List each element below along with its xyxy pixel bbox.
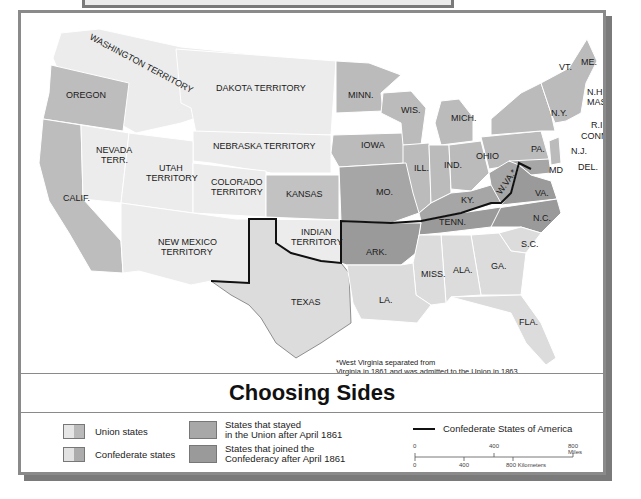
confederate-swatch [63, 447, 85, 462]
joined-confederacy-swatch [189, 445, 217, 463]
label-utah: UTAH [159, 163, 183, 173]
legend-label-csa: Confederate States of America [443, 424, 572, 434]
scale-miles-800: 800 Miles [568, 443, 593, 455]
label-dakota-territory: DAKOTA TERRITORY [216, 83, 306, 93]
legend-label-union: Union states [95, 427, 148, 437]
label-indian-territory-2: TERRITORY [291, 237, 343, 247]
csa-line-icon [413, 428, 435, 430]
label-michigan: MICH. [451, 113, 477, 123]
label-oregon: OREGON [66, 90, 106, 100]
label-indian-territory: INDIAN [301, 227, 332, 237]
label-nevada: NEVADA [96, 145, 132, 155]
legend-label-joined-2: Confederacy after April 1861 [225, 454, 345, 464]
label-ohio: OHIO [476, 151, 499, 161]
label-wisconsin: WIS. [401, 105, 421, 115]
label-new-hampshire: N.H. [587, 87, 603, 97]
legend-item-union: Union states [63, 424, 148, 439]
scale-bar: 0 400 800 Miles 0 400 800 Kilometers [413, 443, 593, 473]
label-colorado-2: TERRITORY [211, 187, 263, 197]
scale-km-0: 0 [413, 462, 416, 468]
label-alabama: ALA. [453, 265, 473, 275]
label-kansas: KANSAS [286, 189, 323, 199]
label-georgia: GA. [491, 261, 507, 271]
scale-km-400: 400 [459, 462, 469, 468]
us-civil-war-map: WASHINGTON TERRITORY OREGON DAKOTA TERRI… [21, 13, 603, 373]
label-new-york: N.Y. [551, 108, 567, 118]
label-rhode-island: R.I. [591, 120, 603, 130]
label-pennsylvania: PA. [531, 144, 545, 154]
legend-item-confederate: Confederate states [63, 447, 175, 462]
legend-item-joined-confederacy: States that joined the Confederacy after… [189, 444, 345, 464]
stayed-union-swatch [189, 421, 217, 439]
label-new-jersey: N.J. [571, 146, 587, 156]
map-frame: WASHINGTON TERRITORY OREGON DAKOTA TERRI… [18, 10, 606, 475]
title-bar: Choosing Sides [21, 373, 603, 413]
label-massachusetts: MASS. [587, 97, 603, 107]
label-mississippi: MISS. [421, 269, 446, 279]
label-iowa: IOWA [361, 140, 385, 150]
label-nevada-2: TERR. [101, 155, 128, 165]
map-title: Choosing Sides [229, 380, 395, 406]
label-louisiana: LA. [379, 295, 393, 305]
label-south-carolina: S.C. [521, 239, 539, 249]
label-new-mexico: NEW MEXICO [158, 237, 217, 247]
label-texas: TEXAS [291, 297, 321, 307]
scale-km-800: 800 Kilometers [506, 462, 546, 468]
legend-label-confederate: Confederate states [95, 450, 175, 460]
label-missouri: MO. [376, 187, 393, 197]
label-maryland: MD [549, 165, 563, 175]
scale-miles-0: 0 [413, 443, 416, 449]
label-connecticut: CONN. [581, 131, 603, 141]
legend-item-csa: Confederate States of America [413, 424, 572, 434]
legend-label-stayed-2: in the Union after April 1861 [225, 430, 342, 440]
label-nebraska-territory: NEBRASKA TERRITORY [213, 141, 316, 151]
label-california: CALIF. [63, 193, 90, 203]
label-vermont: VT. [559, 62, 572, 72]
footnote-line-1: West Virginia separated from [339, 358, 435, 367]
label-new-mexico-2: TERRITORY [161, 247, 213, 257]
label-north-carolina: N.C. [533, 213, 551, 223]
union-swatch [63, 424, 85, 439]
region-new-jersey [549, 137, 561, 165]
label-arkansas: ARK. [366, 247, 387, 257]
region-arkansas [341, 221, 421, 265]
label-indiana: IND. [444, 160, 462, 170]
label-illinois: ILL. [414, 163, 429, 173]
label-maine: ME. [581, 57, 597, 67]
label-utah-2: TERRITORY [146, 173, 198, 183]
scale-bar-graphic [413, 443, 593, 473]
label-colorado: COLORADO [211, 177, 263, 187]
background-page-edge [82, 0, 454, 8]
label-tennessee: TENN. [439, 217, 466, 227]
scale-miles-400: 400 [489, 443, 499, 449]
label-minnesota: MINN. [348, 90, 374, 100]
region-iowa [331, 133, 406, 167]
label-kentucky: KY. [461, 195, 474, 205]
label-delaware: DEL. [578, 162, 598, 172]
legend-item-stayed-union: States that stayed in the Union after Ap… [189, 420, 342, 440]
label-virginia: VA. [535, 188, 549, 198]
region-florida [451, 295, 556, 365]
label-florida: FLA. [519, 317, 538, 327]
